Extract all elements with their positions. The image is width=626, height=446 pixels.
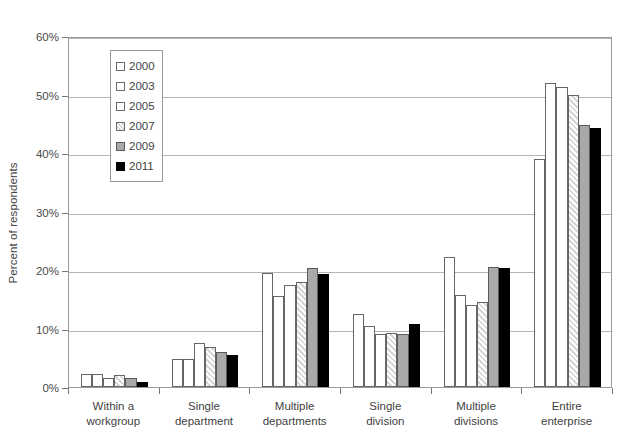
bar xyxy=(364,326,375,387)
x-category-label-line: workgroup xyxy=(68,414,159,429)
bar xyxy=(114,375,125,387)
bar-chart: Percent of respondents 0%10%20%30%40%50%… xyxy=(0,0,626,446)
x-category-label: Multipledepartments xyxy=(249,399,340,429)
legend-item[interactable]: 2005 xyxy=(116,96,155,116)
bar xyxy=(227,355,238,387)
bar xyxy=(545,83,556,387)
legend-swatch-icon xyxy=(116,82,125,91)
x-tick-mark xyxy=(521,388,522,394)
bar-group xyxy=(262,38,329,387)
bar xyxy=(318,274,329,387)
x-category-label-line: Multiple xyxy=(249,399,340,414)
bar xyxy=(81,374,92,387)
y-tick-label: 60% xyxy=(11,31,59,43)
legend-item[interactable]: 2000 xyxy=(116,56,155,76)
bar-group xyxy=(353,38,420,387)
bar xyxy=(397,334,408,387)
legend-swatch-icon xyxy=(116,142,125,151)
legend-label: 2000 xyxy=(129,60,155,72)
y-tick-label: 20% xyxy=(11,265,59,277)
legend-swatch-icon xyxy=(116,122,125,131)
bar xyxy=(216,352,227,387)
bar xyxy=(137,382,148,387)
bar xyxy=(125,378,136,387)
legend-label: 2005 xyxy=(129,100,155,112)
y-tick-label: 30% xyxy=(11,207,59,219)
x-category-label-line: enterprise xyxy=(521,414,612,429)
bar xyxy=(590,128,601,387)
y-tick-label: 50% xyxy=(11,90,59,102)
bar xyxy=(499,268,510,387)
bar xyxy=(477,302,488,387)
x-category-label-line: divisions xyxy=(431,414,522,429)
bar xyxy=(205,347,216,387)
x-category-label-line: Within a xyxy=(68,399,159,414)
x-category-label: Singledepartment xyxy=(159,399,250,429)
x-category-label-line: departments xyxy=(249,414,340,429)
x-category-label-line: Entire xyxy=(521,399,612,414)
x-category-label: Within aworkgroup xyxy=(68,399,159,429)
bar xyxy=(284,285,295,387)
legend-swatch-icon xyxy=(116,162,125,171)
legend-item[interactable]: 2007 xyxy=(116,116,155,136)
legend-label: 2003 xyxy=(129,80,155,92)
x-tick-mark xyxy=(68,388,69,394)
bar xyxy=(455,295,466,387)
bar-group xyxy=(534,38,601,387)
bar xyxy=(444,257,455,387)
bar xyxy=(307,268,318,387)
x-category-label-line: department xyxy=(159,414,250,429)
x-tick-mark xyxy=(612,388,613,394)
bar xyxy=(92,374,103,387)
x-category-label: Entireenterprise xyxy=(521,399,612,429)
bar xyxy=(488,267,499,387)
x-category-label-line: division xyxy=(340,414,431,429)
bar xyxy=(375,334,386,387)
y-axis-title: Percent of respondents xyxy=(0,0,26,446)
bar xyxy=(579,125,590,387)
x-tick-mark xyxy=(340,388,341,394)
x-tick-mark xyxy=(431,388,432,394)
x-category-label: Singledivision xyxy=(340,399,431,429)
legend-swatch-icon xyxy=(116,62,125,71)
legend-label: 2009 xyxy=(129,140,155,152)
bar xyxy=(273,296,284,387)
bar xyxy=(534,159,545,387)
legend-label: 2007 xyxy=(129,120,155,132)
bar xyxy=(296,282,307,387)
bar xyxy=(172,359,183,387)
bar xyxy=(183,359,194,387)
x-tick-mark xyxy=(249,388,250,394)
y-tick-label: 40% xyxy=(11,148,59,160)
bar-group xyxy=(444,38,511,387)
x-category-label-line: Single xyxy=(340,399,431,414)
bar xyxy=(353,314,364,387)
legend-item[interactable]: 2003 xyxy=(116,76,155,96)
bar xyxy=(262,273,273,387)
bar xyxy=(194,343,205,387)
bar xyxy=(556,87,567,387)
bar xyxy=(386,333,397,387)
bar xyxy=(409,324,420,387)
x-category-label-line: Single xyxy=(159,399,250,414)
legend-label: 2011 xyxy=(129,160,154,172)
y-tick-label: 0% xyxy=(11,382,59,394)
bar-group xyxy=(172,38,239,387)
x-tick-mark xyxy=(159,388,160,394)
legend: 200020032005200720092011 xyxy=(110,50,163,182)
x-category-label-line: Multiple xyxy=(431,399,522,414)
legend-item[interactable]: 2009 xyxy=(116,136,155,156)
legend-swatch-icon xyxy=(116,102,125,111)
legend-item[interactable]: 2011 xyxy=(116,156,155,176)
y-tick-label: 10% xyxy=(11,324,59,336)
bar xyxy=(568,95,579,388)
bar xyxy=(466,305,477,387)
x-category-label: Multipledivisions xyxy=(431,399,522,429)
bar xyxy=(103,378,114,387)
